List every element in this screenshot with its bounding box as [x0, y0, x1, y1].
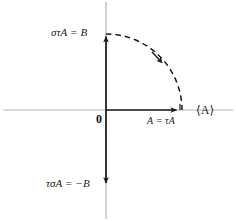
label-tau-sigma-A-equals-minus-B: τσA = −B — [46, 178, 90, 189]
label-A-equals-tau-A: A = τA — [147, 116, 175, 126]
math-diagram-figure: στA = B τσA = −B A = τA ⟨A⟩ 0 — [0, 0, 236, 221]
dashed-rotation-arc — [106, 34, 182, 110]
label-axis-bracket-A: ⟨A⟩ — [196, 104, 214, 116]
label-origin: 0 — [96, 113, 102, 125]
label-sigma-tau-A-equals-B: στA = B — [51, 27, 87, 38]
